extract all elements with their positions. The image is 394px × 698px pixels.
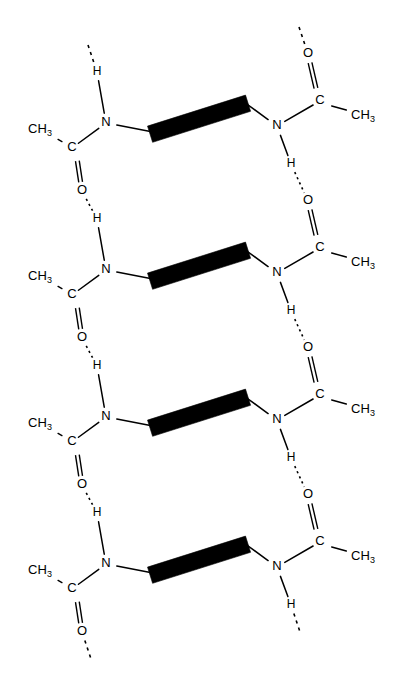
unit-2-left-carbonyl-oxygen-label: O <box>77 329 87 344</box>
unit-1-right-carbonyl-oxygen-label: O <box>303 45 313 60</box>
unit-4-left-amide-nitrogen-label: N <box>101 555 110 570</box>
unit-4-right-amide-nitrogen-label: N <box>272 558 281 573</box>
unit-3-left-carbonyl-oxygen-label: O <box>77 476 87 491</box>
unit-3-right-carbonyl-oxygen-label: O <box>303 339 313 354</box>
unit-2-left-carbonyl-carbon-label: C <box>67 286 76 301</box>
unit-4-right-amide-hydrogen-label: H <box>287 597 296 611</box>
unit-3-right-amide-nitrogen-label: N <box>272 411 281 426</box>
unit-3-right-amide-hydrogen-label: H <box>287 450 296 464</box>
unit-4-left-carbonyl-oxygen-label: O <box>77 623 87 638</box>
figure-background <box>0 0 394 698</box>
unit-1-right-amide-nitrogen-label: N <box>272 117 281 132</box>
unit-1-right-amide-hydrogen-label: H <box>287 156 296 170</box>
unit-2-left-amide-nitrogen-label: N <box>101 261 110 276</box>
chemical-structure-figure: CH3CNOHCH3CNOHCH3CNOHCH3CNOHCH3CNOHCH3CN… <box>0 0 394 698</box>
unit-3-left-carbonyl-carbon-label: C <box>67 433 76 448</box>
unit-4-left-carbonyl-carbon-label: C <box>67 580 76 595</box>
unit-4-right-carbonyl-oxygen-label: O <box>303 486 313 501</box>
unit-3-right-carbonyl-carbon-label: C <box>315 386 324 401</box>
unit-2-right-amide-hydrogen-label: H <box>287 303 296 317</box>
unit-3-left-amide-nitrogen-label: N <box>101 408 110 423</box>
unit-2-right-amide-nitrogen-label: N <box>272 264 281 279</box>
unit-1-left-amide-hydrogen-label: H <box>93 64 102 78</box>
unit-1-left-carbonyl-oxygen-label: O <box>77 182 87 197</box>
unit-1-left-amide-nitrogen-label: N <box>101 114 110 129</box>
unit-3-left-amide-hydrogen-label: H <box>93 358 102 372</box>
unit-1-right-carbonyl-carbon-label: C <box>315 92 324 107</box>
unit-2-right-carbonyl-carbon-label: C <box>315 239 324 254</box>
unit-4-left-amide-hydrogen-label: H <box>93 505 102 519</box>
unit-4-right-carbonyl-carbon-label: C <box>315 533 324 548</box>
unit-1-left-carbonyl-carbon-label: C <box>67 139 76 154</box>
unit-2-left-amide-hydrogen-label: H <box>93 211 102 225</box>
structure-canvas: CH3CNOHCH3CNOHCH3CNOHCH3CNOHCH3CNOHCH3CN… <box>0 0 394 698</box>
unit-2-right-carbonyl-oxygen-label: O <box>303 192 313 207</box>
